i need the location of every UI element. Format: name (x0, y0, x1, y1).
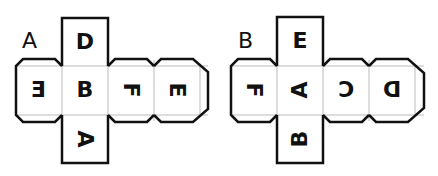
face-b-top: E (277, 17, 323, 65)
face-b-bottom: B (277, 115, 323, 163)
face-b-right-1: C (323, 66, 369, 114)
cube-net-b: B E F A C D B (0, 0, 438, 176)
face-b-right-2: D (369, 66, 415, 114)
face-b-left: F (231, 66, 277, 114)
face-b-center: A (277, 66, 323, 114)
